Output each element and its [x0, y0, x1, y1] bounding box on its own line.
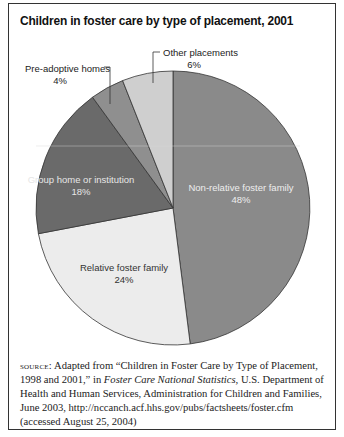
slice-non-relative-foster-family: [173, 71, 310, 344]
label-group-home-name: Group home or institution: [28, 174, 135, 185]
source-note: source: Adapted from “Children in Foster…: [20, 359, 332, 429]
source-publication: Foster Care National Statistics,: [104, 374, 238, 385]
label-relative-pct: 24%: [114, 274, 134, 285]
label-non-relative-pct: 48%: [231, 194, 251, 205]
label-group-home-pct: 18%: [71, 186, 91, 197]
label-pre-adoptive-pct: 4%: [53, 75, 67, 86]
label-other-pct: 6%: [187, 59, 201, 70]
label-other-name: Other placements: [163, 47, 238, 58]
label-non-relative-name: Non-relative foster family: [188, 182, 293, 193]
label-pre-adoptive-name: Pre-adoptive homes: [25, 63, 110, 74]
label-relative-name: Relative foster family: [80, 262, 168, 273]
source-prefix: source:: [20, 360, 52, 371]
